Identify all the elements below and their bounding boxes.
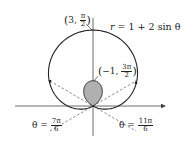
ray-label-11pi-6: θ = 11π6 [119,118,153,133]
point-label-inner: (−1, 3π2) [98,64,137,79]
ray-label-7pi-6: θ = 7π6 [32,118,62,133]
equation-label: r = 1 + 2 sin θ [110,22,180,32]
point-label-top: (3, π2) [64,13,91,28]
